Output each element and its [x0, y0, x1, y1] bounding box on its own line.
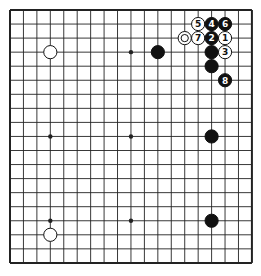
black-stone[interactable]	[205, 130, 218, 143]
black-stone[interactable]	[151, 46, 164, 59]
white-stone[interactable]: 1	[218, 31, 231, 44]
white-stone[interactable]	[178, 31, 191, 44]
star-point	[48, 219, 52, 223]
move-number: 6	[222, 19, 228, 29]
move-number: 5	[195, 19, 201, 29]
white-stone[interactable]: 7	[192, 31, 205, 44]
white-stone[interactable]: 3	[218, 46, 231, 59]
star-point	[129, 50, 133, 54]
black-stone[interactable]: 8	[218, 74, 231, 87]
move-number: 1	[222, 33, 228, 43]
white-stone[interactable]	[44, 46, 57, 59]
move-number: 2	[208, 33, 214, 43]
white-stone[interactable]	[44, 228, 57, 241]
move-number: 3	[222, 47, 228, 57]
star-point	[129, 219, 133, 223]
go-board[interactable]: 54672138	[0, 0, 261, 276]
black-stone[interactable]: 2	[205, 31, 218, 44]
black-stone[interactable]: 6	[218, 17, 231, 30]
black-stone[interactable]	[205, 214, 218, 227]
black-stone[interactable]	[205, 46, 218, 59]
black-stone[interactable]	[205, 60, 218, 73]
move-number: 4	[208, 19, 214, 29]
star-point	[129, 134, 133, 138]
white-stone[interactable]: 5	[192, 17, 205, 30]
move-number: 8	[222, 76, 228, 86]
black-stone[interactable]: 4	[205, 17, 218, 30]
star-point	[48, 134, 52, 138]
move-number: 7	[195, 33, 201, 43]
stones-layer[interactable]: 54672138	[44, 17, 232, 241]
